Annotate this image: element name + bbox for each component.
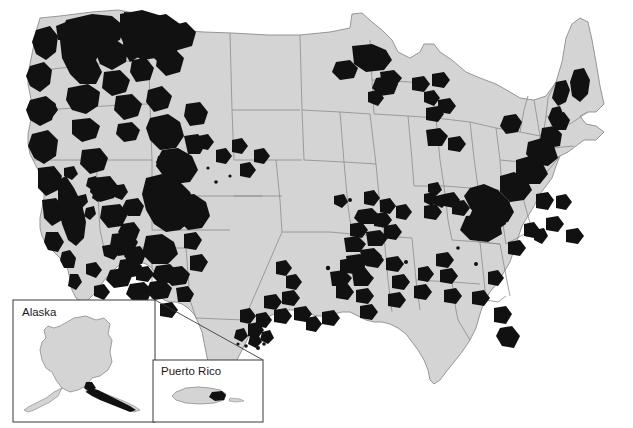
distribution-map: Alaska Puerto Rico [0, 0, 633, 428]
alaska-inset: Alaska [13, 300, 155, 422]
us-distribution-map-svg: Alaska Puerto Rico [0, 0, 633, 428]
puerto-rico-inset-label: Puerto Rico [161, 365, 221, 377]
puerto-rico-inset: Puerto Rico [153, 360, 263, 422]
alaska-inset-label: Alaska [22, 306, 57, 318]
